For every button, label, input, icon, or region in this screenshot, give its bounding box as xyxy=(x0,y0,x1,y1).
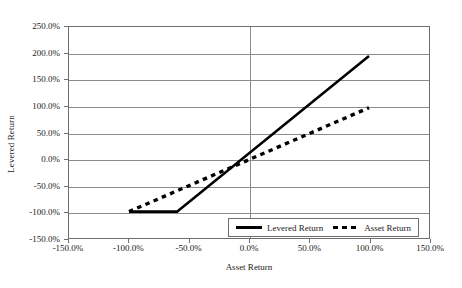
x-axis-tick-mark xyxy=(370,239,371,243)
legend-label-asset-return: Asset Return xyxy=(364,223,411,233)
x-axis-tick-mark xyxy=(128,239,129,243)
series-line-asset-return xyxy=(129,108,369,212)
y-axis-title: Levered Return xyxy=(0,0,22,288)
y-axis-tick-label: 200.0% xyxy=(0,48,60,58)
y-axis-tick-label: -50.0% xyxy=(0,181,60,191)
plot-area xyxy=(68,26,430,239)
y-axis-tick-label: 150.0% xyxy=(0,74,60,84)
chart-legend: Levered Return Asset Return xyxy=(228,218,419,237)
series-layer xyxy=(69,27,429,238)
x-axis-tick-mark xyxy=(68,239,69,243)
y-axis-tick-label: 0.0% xyxy=(0,154,60,164)
series-line-levered-return xyxy=(129,56,369,212)
y-axis-title-label: Levered Return xyxy=(6,115,16,173)
legend-item-levered-return: Levered Return xyxy=(236,223,323,233)
x-axis-tick-mark xyxy=(309,239,310,243)
legend-label-levered-return: Levered Return xyxy=(267,223,323,233)
legend-item-asset-return: Asset Return xyxy=(333,223,411,233)
x-axis-title-label: Asset Return xyxy=(226,262,273,272)
y-axis-tick-label: -100.0% xyxy=(0,207,60,217)
legend-swatch-solid-icon xyxy=(236,226,262,229)
x-axis-tick-label: 150.0% xyxy=(395,243,462,253)
chart-container: Levered Return Asset Return 250.0%200.0%… xyxy=(0,0,462,288)
x-axis-tick-mark xyxy=(249,239,250,243)
legend-swatch-dashed-icon xyxy=(333,226,359,229)
x-axis-tick-mark xyxy=(430,239,431,243)
y-axis-tick-label: 100.0% xyxy=(0,101,60,111)
x-axis-title: Asset Return xyxy=(68,262,430,272)
x-axis-tick-mark xyxy=(189,239,190,243)
y-axis-tick-label: 50.0% xyxy=(0,128,60,138)
y-axis-tick-label: 250.0% xyxy=(0,21,60,31)
